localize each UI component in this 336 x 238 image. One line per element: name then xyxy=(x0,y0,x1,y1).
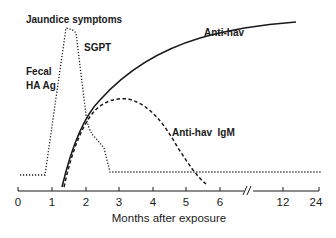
fecal-ha-ag-sgpt-curve xyxy=(20,28,322,175)
annotation-fecal: Fecal xyxy=(26,66,52,77)
annotation-sgpt: SGPT xyxy=(84,42,111,53)
annotation-anti-hav: Anti-hav xyxy=(204,27,244,38)
x-axis-title: Months after exposure xyxy=(112,212,226,224)
annotation-anti-hav-igm: Anti-hav IgM xyxy=(172,127,235,138)
x-tick-label: 0 xyxy=(15,196,21,208)
x-tick-label: 4 xyxy=(150,196,157,208)
x-tick-label: 2 xyxy=(83,196,89,208)
x-tick-label: 6 xyxy=(217,196,223,208)
x-tick-label: 12 xyxy=(277,196,290,208)
x-axis xyxy=(18,187,319,191)
x-tick-label: 3 xyxy=(116,196,122,208)
x-tick-label: 24 xyxy=(310,196,323,208)
x-tick-label: 1 xyxy=(49,196,55,208)
axis-break-icon xyxy=(243,186,251,195)
hepatitis-a-timeline-chart: 0 1 2 3 4 5 6 12 24 Months after exposur… xyxy=(0,0,336,238)
annotation-jaundice-symptoms: Jaundice symptoms xyxy=(26,14,123,25)
x-tick-label: 5 xyxy=(183,196,189,208)
annotation-ha-ag: HA Ag xyxy=(26,80,56,91)
